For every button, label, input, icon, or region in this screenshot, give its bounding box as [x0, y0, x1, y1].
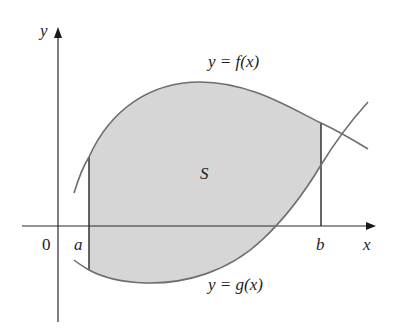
- x-axis-label: x: [363, 236, 371, 253]
- g-curve-label: y = g(x): [208, 276, 263, 293]
- y-axis-label: y: [40, 22, 48, 39]
- a-label: a: [74, 236, 83, 253]
- b-label: b: [316, 236, 325, 253]
- x-axis-arrow-icon: [366, 222, 376, 230]
- region-s-label: S: [200, 165, 209, 182]
- origin-label: 0: [42, 236, 51, 253]
- f-curve-label: y = f(x): [208, 53, 259, 70]
- y-axis-arrow-icon: [54, 27, 62, 38]
